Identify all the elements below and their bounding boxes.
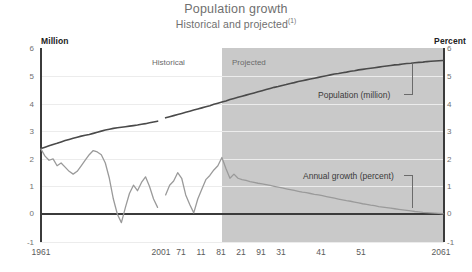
annual-growth-line	[41, 149, 443, 222]
series-canvas	[0, 0, 472, 272]
footnote-cutoff	[4, 264, 6, 270]
population-line	[41, 60, 443, 148]
